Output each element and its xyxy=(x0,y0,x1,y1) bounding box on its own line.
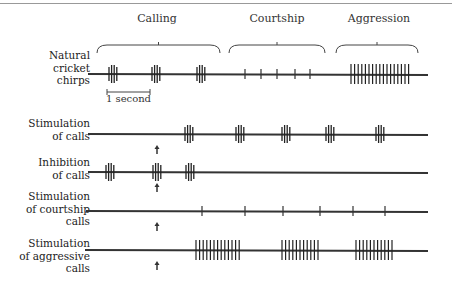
stimulus-arrowhead-icon xyxy=(155,145,160,149)
trace-baseline xyxy=(85,250,428,251)
category-bracket xyxy=(97,42,220,53)
stimulus-arrowhead-icon xyxy=(155,222,160,226)
stimulus-arrowhead-icon xyxy=(155,183,160,187)
trace-baseline xyxy=(86,211,428,212)
trace-baseline xyxy=(88,74,428,75)
scale-bar-label: 1 second xyxy=(106,93,152,104)
cricket-call-traces: 1 second xyxy=(0,0,452,291)
stimulus-arrowhead-icon xyxy=(155,261,160,265)
category-bracket xyxy=(336,42,418,53)
trace-baseline xyxy=(88,172,428,173)
trace-baseline xyxy=(88,134,428,135)
category-bracket xyxy=(229,42,325,53)
